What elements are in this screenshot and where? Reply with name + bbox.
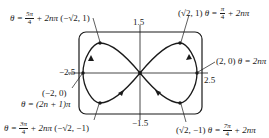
fraction: π4 bbox=[220, 6, 226, 21]
x-max-label: 2.5 bbox=[204, 75, 215, 85]
arrow-up-left-lobe bbox=[88, 55, 94, 61]
x-min-label: −2.5 bbox=[59, 67, 75, 77]
fraction: 7π4 bbox=[223, 123, 232, 138]
y-max-label: 1.5 bbox=[133, 17, 144, 27]
theta-eq: θ = bbox=[10, 13, 23, 23]
point-label: (−√2, −1) bbox=[54, 123, 89, 133]
fraction: 5π4 bbox=[25, 11, 34, 26]
y-min-label: −1.5 bbox=[132, 118, 148, 128]
annotation-left-point: (−2, 0) bbox=[42, 88, 67, 98]
arrow-up-right-lobe bbox=[186, 54, 192, 60]
arrow-down-right-diagonal bbox=[155, 90, 161, 96]
point-label: (−√2, 1) bbox=[60, 13, 90, 23]
point-label: (√2, 1) bbox=[178, 8, 202, 18]
point-origin bbox=[138, 71, 142, 75]
annotation-top-right: (√2, 1) θ = π4 + 2nπ bbox=[178, 6, 249, 21]
annotation-left-theta: θ = (2n + 1)π bbox=[21, 99, 71, 109]
annotation-top-left: θ = 5π4 + 2nπ (−√2, 1) bbox=[10, 11, 90, 26]
point-label: (√2, −1) bbox=[176, 125, 206, 135]
annotation-right: (2, 0) θ = 2nπ bbox=[216, 56, 266, 66]
fraction: 3π4 bbox=[19, 121, 28, 136]
annotation-bottom-left: θ = 3π4 + 2nπ (−√2, −1) bbox=[4, 121, 89, 136]
point-label: (2, 0) bbox=[216, 56, 236, 66]
annotation-bottom-right: (√2, −1) θ = 7π4 + 2nπ bbox=[176, 123, 256, 138]
